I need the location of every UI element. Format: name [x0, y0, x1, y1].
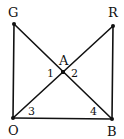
point-G	[12, 22, 16, 26]
point-R	[111, 24, 115, 28]
angle-label-2: 2	[71, 67, 78, 80]
segment-OB	[13, 118, 112, 119]
angle-label-1: 1	[47, 67, 54, 80]
label-B: B	[107, 124, 117, 139]
label-R: R	[108, 5, 119, 20]
label-A: A	[58, 53, 69, 68]
label-O: O	[8, 123, 19, 138]
point-O	[11, 116, 15, 120]
label-G: G	[8, 5, 18, 20]
geometry-diagram: G R O B A 1 2 3 4	[0, 0, 124, 139]
angle-label-3: 3	[28, 105, 35, 118]
segment-RB	[112, 26, 113, 119]
point-B	[110, 117, 114, 121]
segment-GO	[13, 24, 14, 118]
point-A	[61, 70, 65, 74]
angle-label-4: 4	[90, 105, 97, 118]
